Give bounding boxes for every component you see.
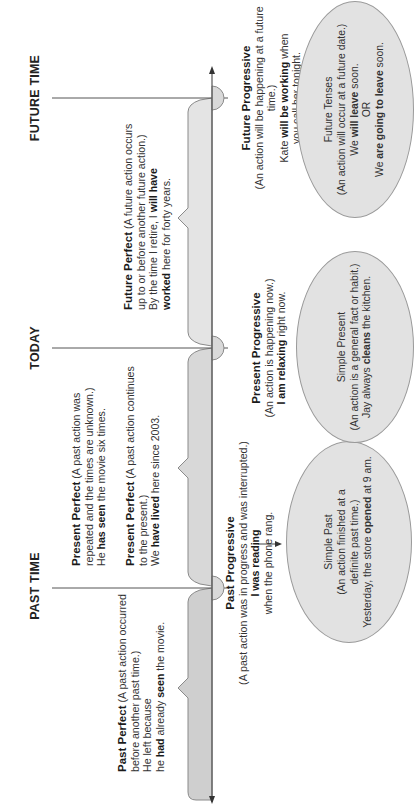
future-tenses-ellipse: Future Tenses (An action will occur at a… <box>296 1 414 218</box>
past-perfect-block: Past Perfect (A past action occurred bef… <box>116 592 166 772</box>
future-progressive-block: Future Progressive (An action will be ha… <box>240 0 303 203</box>
present-progressive-title: Present Progressive <box>250 292 262 403</box>
future-progressive-title: Future Progressive <box>240 46 252 151</box>
past-progressive-title: Past Progressive <box>224 516 236 609</box>
simple-present-ellipse: Simple Present (An action is a general f… <box>296 251 414 443</box>
present-progressive-block: Present Progressive (An action is happen… <box>250 268 288 428</box>
past-time-heading: PAST TIME <box>28 546 42 626</box>
past-progressive-marker <box>212 576 224 600</box>
axis-arrow-future <box>209 66 215 74</box>
past-progressive-block: Past Progressive (A past action was in p… <box>224 438 274 688</box>
today-heading: TODAY <box>28 308 42 388</box>
future-perfect-bracket <box>178 98 212 346</box>
future-progressive-marker <box>212 86 224 110</box>
simple-past-ellipse: Simple Past (An action finished at a def… <box>286 441 412 643</box>
future-tenses-title: Future Tenses <box>323 77 336 143</box>
tense-timeline-diagram: PAST TIME TODAY FUTURE TIME Past Perfect… <box>0 0 415 808</box>
present-perfect-title-2: Present Perfect <box>124 482 136 566</box>
future-time-heading: FUTURE TIME <box>28 48 42 148</box>
future-perfect-block: Future Perfect (A future action occurs u… <box>122 100 172 310</box>
present-perfect-title-1: Present Perfect <box>70 482 82 566</box>
simple-past-title: Simple Past <box>323 514 336 569</box>
past-perfect-title: Past Perfect <box>116 706 128 772</box>
simple-present-title: Simple Present <box>336 312 349 382</box>
present-perfect-bracket <box>178 348 212 586</box>
present-perfect-continues-block: Present Perfect (A past action continues… <box>124 356 162 566</box>
present-perfect-repeated-block: Present Perfect (A past action was repea… <box>70 356 108 566</box>
past-perfect-bracket <box>178 588 212 800</box>
future-perfect-title: Future Perfect <box>122 232 134 310</box>
present-progressive-marker <box>212 336 224 360</box>
